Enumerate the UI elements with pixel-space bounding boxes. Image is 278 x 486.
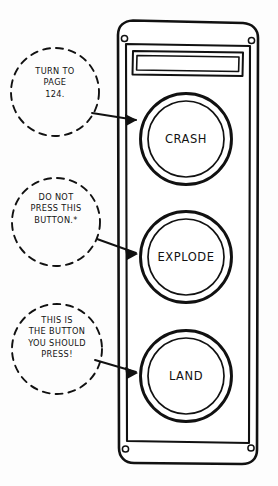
callout-2-dashed-circle [12, 304, 102, 394]
line-art-drawing [0, 0, 278, 486]
button-crash[interactable] [141, 94, 232, 185]
callout-1-dashed-circle [12, 178, 100, 266]
display-inner-glass [137, 56, 239, 72]
button-explode-cap [148, 219, 224, 295]
screw-hole-top-right [248, 37, 254, 43]
screw-hole-top-left [121, 35, 127, 41]
button-land-cap [148, 338, 224, 414]
button-land[interactable] [141, 331, 232, 422]
callout-bubble-2 [12, 304, 102, 394]
illustration-canvas: TURN TO PAGE 124. DO NOT PRESS THIS BUTT… [0, 0, 278, 486]
callout-bubble-0 [11, 48, 99, 136]
callout-0-dashed-circle [11, 48, 99, 136]
button-explode[interactable] [141, 212, 232, 303]
button-crash-cap [148, 101, 224, 177]
screw-hole-bottom-left [122, 446, 128, 452]
screw-hole-bottom-right [248, 445, 254, 451]
display-screen [133, 51, 244, 76]
callout-bubble-1 [12, 178, 100, 266]
